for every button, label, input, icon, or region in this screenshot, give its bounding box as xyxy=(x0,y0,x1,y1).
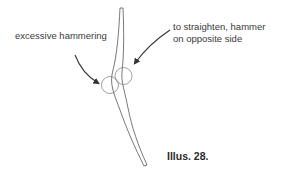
arrow-right xyxy=(135,30,170,63)
circle-opposite-side xyxy=(115,68,132,85)
arrow-left xyxy=(75,55,98,83)
label-straighten-line1: to straighten, hammer xyxy=(173,21,265,33)
label-straighten-line2: on opposite side xyxy=(173,33,242,45)
label-excessive-hammering: excessive hammering xyxy=(15,30,107,42)
figure-caption: Illus. 28. xyxy=(167,150,208,162)
illustration: excessive hammering to straighten, hamme… xyxy=(0,0,282,176)
circle-excessive-hammering xyxy=(102,77,119,94)
blade-outline xyxy=(112,8,147,166)
